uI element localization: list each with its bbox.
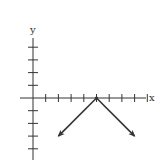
y-axis-label: y bbox=[29, 24, 36, 35]
coordinate-plane: x y bbox=[0, 0, 165, 160]
x-axis-label: x bbox=[149, 92, 155, 103]
right-ray-arrow bbox=[97, 98, 135, 136]
left-ray-arrow bbox=[58, 98, 96, 136]
absolute-value-graph bbox=[58, 96, 134, 136]
vertex-point bbox=[95, 96, 98, 99]
